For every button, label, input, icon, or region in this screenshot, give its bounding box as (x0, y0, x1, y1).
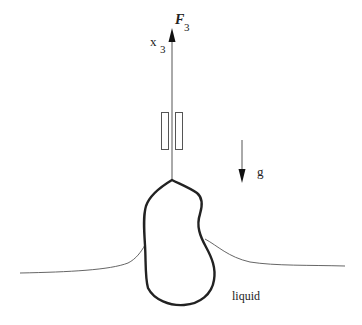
liquid-surface-left (20, 245, 145, 273)
liquid-surface-right (205, 239, 345, 266)
liquid-label: liquid (232, 289, 260, 303)
force-arrowhead-icon (169, 28, 176, 42)
force-subscript: 3 (184, 21, 190, 33)
clamp-right (176, 113, 183, 150)
gravity-label: g (257, 164, 264, 179)
axis-subscript: 3 (160, 43, 166, 55)
gravity-arrowhead-icon (239, 169, 246, 183)
clamp-left (162, 113, 169, 150)
liquid-bridge-diagram: F 3 x 3 g liquid (0, 0, 362, 325)
axis-label: x (150, 34, 157, 49)
body-outline (144, 180, 215, 305)
